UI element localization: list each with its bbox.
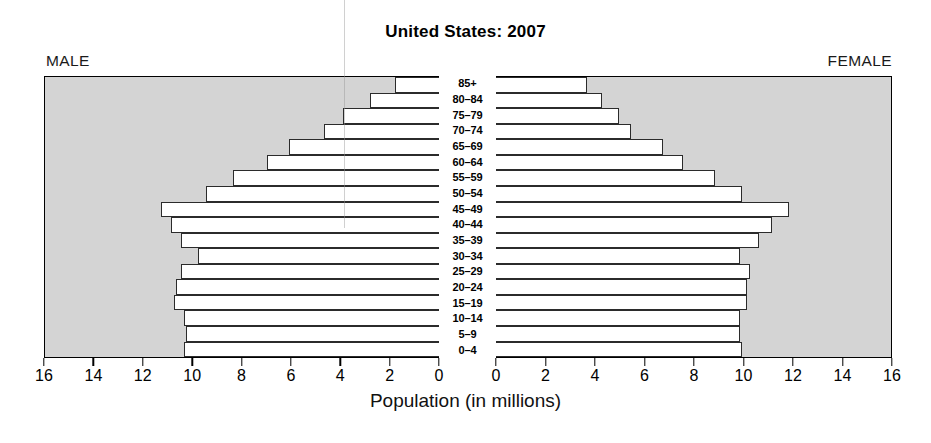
age-group-label: 45–49 — [439, 201, 496, 217]
age-group-label: 75–79 — [439, 107, 496, 123]
female-bar — [496, 108, 619, 124]
bar-row — [45, 155, 438, 171]
female-bar — [496, 124, 631, 140]
female-x-axis: 0246810121416 — [496, 358, 892, 388]
bar-row — [497, 108, 891, 124]
age-group-label: 35–39 — [439, 233, 496, 249]
age-group-axis: 85+80–8475–7970–7465–6960–6455–5950–5445… — [439, 76, 496, 358]
bar-row — [497, 264, 891, 280]
male-x-axis: 1614121086420 — [44, 358, 439, 388]
x-axis-caption: Population (in millions) — [0, 390, 931, 412]
bar-row — [45, 342, 438, 358]
axis-tick-label: 8 — [690, 367, 699, 385]
axis-tick-label: 2 — [541, 367, 550, 385]
bar-row — [45, 326, 438, 342]
axis-tick-label: 0 — [492, 367, 501, 385]
female-plot-panel — [496, 76, 892, 358]
axis-tick-label: 0 — [435, 367, 444, 385]
male-plot-panel — [44, 76, 439, 358]
age-group-label: 70–74 — [439, 123, 496, 139]
age-group-label: 30–34 — [439, 248, 496, 264]
axis-tick-label: 4 — [591, 367, 600, 385]
age-group-label: 25–29 — [439, 264, 496, 280]
bar-row — [497, 233, 891, 249]
male-bar — [181, 264, 439, 280]
bar-row — [45, 279, 438, 295]
bar-row — [45, 186, 438, 202]
axis-tick-label: 16 — [883, 367, 901, 385]
axis-tick — [43, 358, 44, 366]
bar-row — [497, 93, 891, 109]
female-bar — [496, 170, 715, 186]
axis-tick-label: 6 — [640, 367, 649, 385]
female-bar — [496, 233, 759, 249]
bar-row — [45, 170, 438, 186]
axis-tick — [142, 358, 143, 366]
age-group-label: 60–64 — [439, 154, 496, 170]
male-bar — [370, 93, 439, 109]
axis-tick-label: 14 — [84, 367, 102, 385]
female-bar — [496, 186, 742, 202]
female-bar — [496, 279, 747, 295]
bar-row — [45, 202, 438, 218]
bar-row — [497, 248, 891, 264]
female-bar — [496, 217, 772, 233]
male-bar — [176, 279, 439, 295]
bar-row — [45, 233, 438, 249]
female-bar — [496, 342, 742, 358]
male-bar — [395, 77, 439, 93]
axis-tick — [340, 358, 341, 366]
bar-row — [497, 342, 891, 358]
male-bar — [184, 310, 439, 326]
age-group-label: 15–19 — [439, 295, 496, 311]
axis-tick — [495, 358, 496, 366]
axis-tick-label: 8 — [237, 367, 246, 385]
bar-row — [45, 248, 438, 264]
age-group-label: 50–54 — [439, 186, 496, 202]
female-bar — [496, 93, 602, 109]
bar-row — [497, 217, 891, 233]
axis-tick-label: 2 — [385, 367, 394, 385]
male-bar — [174, 295, 439, 311]
bar-row — [45, 108, 438, 124]
bar-row — [497, 202, 891, 218]
axis-tick — [743, 358, 744, 366]
axis-tick — [891, 358, 892, 366]
bar-row — [45, 139, 438, 155]
bar-row — [45, 93, 438, 109]
male-bar — [181, 233, 439, 249]
bar-row — [45, 77, 438, 93]
male-bar — [198, 248, 439, 264]
bar-row — [497, 310, 891, 326]
axis-tick — [693, 358, 694, 366]
bar-row — [497, 155, 891, 171]
axis-tick — [389, 358, 390, 366]
bar-row — [45, 217, 438, 233]
bar-row — [497, 124, 891, 140]
population-pyramid-figure: United States: 2007 MALE FEMALE 85+80–84… — [0, 0, 931, 443]
age-group-label: 40–44 — [439, 217, 496, 233]
axis-tick-label: 6 — [286, 367, 295, 385]
axis-tick — [438, 358, 439, 366]
age-group-label: 20–24 — [439, 280, 496, 296]
axis-tick — [191, 358, 192, 366]
male-bar — [289, 139, 439, 155]
age-group-label: 10–14 — [439, 311, 496, 327]
female-bar — [496, 155, 683, 171]
age-group-label: 5–9 — [439, 327, 496, 343]
axis-tick — [290, 358, 291, 366]
bar-row — [497, 295, 891, 311]
age-group-label: 80–84 — [439, 92, 496, 108]
axis-tick — [93, 358, 94, 366]
female-bar — [496, 310, 740, 326]
bar-row — [497, 326, 891, 342]
axis-tick-label: 12 — [134, 367, 152, 385]
male-bar — [267, 155, 439, 171]
female-side-label: FEMALE — [828, 52, 892, 70]
female-bar — [496, 295, 747, 311]
page-title: United States: 2007 — [0, 22, 931, 42]
age-group-label: 65–69 — [439, 139, 496, 155]
female-bar — [496, 202, 789, 218]
male-bar — [171, 217, 439, 233]
bar-row — [45, 295, 438, 311]
